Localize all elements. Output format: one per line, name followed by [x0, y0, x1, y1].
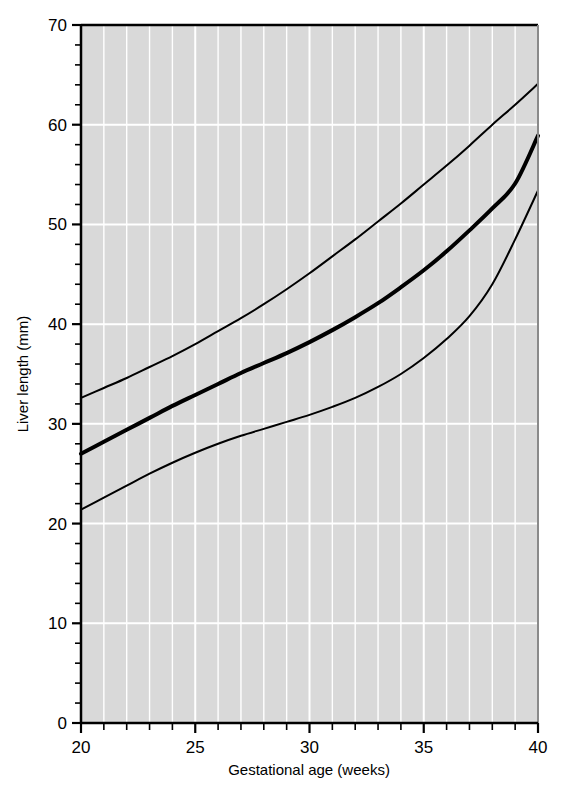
y-tick-label: 70	[48, 16, 67, 35]
y-tick-label: 20	[48, 515, 67, 534]
y-tick-label: 0	[58, 714, 67, 733]
liver-length-centile-chart: 010203040506070 2025303540 Gestational a…	[0, 0, 567, 801]
x-tick-label: 25	[186, 738, 205, 757]
x-tick-label: 40	[529, 738, 548, 757]
y-tick-label: 30	[48, 415, 67, 434]
x-axis-title: Gestational age (weeks)	[228, 761, 390, 778]
y-tick-label: 40	[48, 315, 67, 334]
y-axis-tick-labels: 010203040506070	[48, 16, 67, 733]
x-tick-label: 20	[72, 738, 91, 757]
y-tick-label: 10	[48, 614, 67, 633]
x-axis-ticks	[81, 723, 538, 733]
y-tick-label: 60	[48, 116, 67, 135]
x-axis-tick-labels: 2025303540	[72, 738, 548, 757]
chart-container: 010203040506070 2025303540 Gestational a…	[0, 0, 567, 801]
x-tick-label: 30	[300, 738, 319, 757]
y-tick-label: 50	[48, 215, 67, 234]
x-tick-label: 35	[414, 738, 433, 757]
y-axis-title: Liver length (mm)	[14, 316, 31, 433]
y-axis-ticks	[72, 25, 81, 723]
